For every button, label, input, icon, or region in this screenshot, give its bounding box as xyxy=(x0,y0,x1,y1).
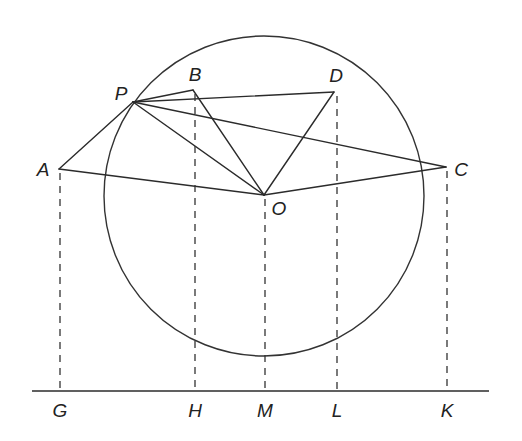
label-G: G xyxy=(53,401,68,420)
segment-BO xyxy=(193,90,264,195)
label-M: M xyxy=(257,401,273,420)
label-P: P xyxy=(115,84,128,103)
label-H: H xyxy=(188,401,202,420)
solid-segments xyxy=(59,90,446,195)
diagram-canvas xyxy=(0,0,522,441)
label-B: B xyxy=(189,65,202,84)
label-A: A xyxy=(37,160,50,179)
label-O: O xyxy=(272,199,287,218)
label-D: D xyxy=(329,66,343,85)
label-L: L xyxy=(332,401,343,420)
dashed-projection-lines xyxy=(60,94,447,391)
segment-DO xyxy=(264,92,334,195)
circle xyxy=(104,36,424,356)
label-K: K xyxy=(441,401,454,420)
segment-OC xyxy=(264,167,446,195)
segment-PD xyxy=(133,92,334,102)
segment-AP xyxy=(59,102,133,169)
geometry-diagram: P B D A O C G H M L K xyxy=(0,0,522,441)
label-C: C xyxy=(454,160,468,179)
